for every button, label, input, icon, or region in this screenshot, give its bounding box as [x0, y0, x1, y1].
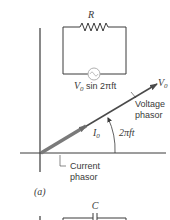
- current-caption-2: phasor: [70, 172, 98, 182]
- voltage-caption-leader: [131, 92, 136, 98]
- capacitor-circuit: C: [40, 200, 126, 220]
- current-label: I0: [92, 127, 100, 140]
- resistor-circuit: R V0 sin 2πft: [63, 9, 126, 93]
- current-phasor-arrow: [41, 126, 86, 153]
- resistor-icon: [80, 23, 108, 31]
- angle-arc: [108, 118, 115, 153]
- source-label: V0 sin 2πft: [74, 80, 117, 93]
- current-caption-leader: [60, 155, 66, 166]
- circuit-wire: [63, 218, 126, 220]
- voltage-tip-label: V0: [158, 77, 168, 90]
- capacitor-label: C: [92, 200, 99, 211]
- voltage-caption: Voltage: [135, 99, 165, 109]
- panel-label: (a): [34, 186, 46, 198]
- circuit-wire: [63, 27, 126, 74]
- voltage-caption-2: phasor: [135, 110, 163, 120]
- phasor-figure: R V0 sin 2πft V0 Voltage phasor I0 2πft …: [0, 0, 170, 220]
- current-caption: Current: [70, 161, 101, 171]
- angle-label: 2πft: [119, 127, 135, 138]
- resistor-label: R: [87, 9, 94, 20]
